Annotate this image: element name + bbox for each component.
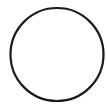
canvas bbox=[0, 0, 107, 108]
circle-drawing bbox=[0, 0, 107, 108]
circle-outline-icon bbox=[11, 8, 104, 101]
